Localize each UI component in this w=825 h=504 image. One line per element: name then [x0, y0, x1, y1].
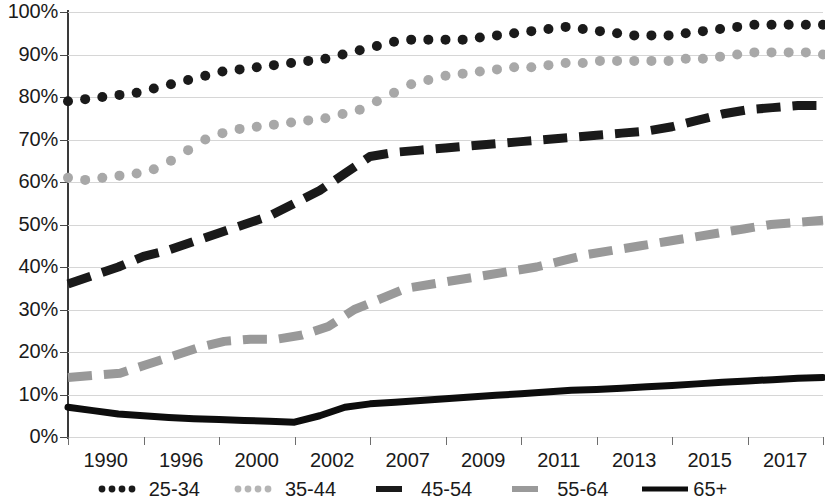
dotted-gray-marker-icon	[234, 482, 280, 496]
legend-item-25-34[interactable]: 25-34	[98, 479, 200, 499]
data-point	[114, 90, 124, 100]
x-axis-tick-mark	[597, 437, 598, 445]
y-axis-tick-label: 50%	[2, 214, 58, 234]
y-axis-tick-label: 100%	[2, 1, 58, 21]
data-point	[664, 30, 674, 40]
data-point	[252, 62, 262, 72]
data-point	[664, 56, 674, 66]
y-axis-tick-label: 90%	[2, 44, 58, 64]
y-axis-tick-label: 10%	[2, 384, 58, 404]
x-axis-tick-mark	[823, 437, 824, 445]
data-point	[423, 75, 433, 85]
data-point	[63, 96, 73, 106]
y-axis-tick-label: 40%	[2, 256, 58, 276]
data-point	[543, 60, 553, 70]
data-point	[200, 71, 210, 81]
legend-item-55-64[interactable]: 55-64	[506, 479, 608, 499]
data-point	[183, 75, 193, 85]
x-axis-tick-label: 2015	[688, 449, 733, 471]
data-point	[149, 164, 159, 174]
data-point	[372, 96, 382, 106]
data-point	[543, 24, 553, 34]
data-point	[749, 47, 759, 57]
x-axis-tick-label: 2009	[461, 449, 506, 471]
data-point	[441, 71, 451, 81]
data-point	[97, 173, 107, 183]
data-point	[252, 122, 262, 132]
data-point	[681, 54, 691, 64]
x-axis-tick-mark	[68, 437, 69, 445]
data-point	[355, 105, 365, 115]
data-point	[269, 60, 279, 70]
plot-area	[68, 12, 823, 437]
legend-item-45-54[interactable]: 45-54	[370, 479, 472, 499]
series-line	[68, 106, 823, 285]
data-point	[132, 169, 142, 179]
data-point	[818, 20, 825, 30]
x-axis-tick-mark	[370, 437, 371, 445]
series-65+	[68, 378, 823, 423]
x-axis-tick-mark	[219, 437, 220, 445]
data-point	[578, 58, 588, 68]
y-axis-tick-label: 60%	[2, 171, 58, 191]
data-point	[458, 69, 468, 79]
x-axis-tick-label: 2007	[386, 449, 431, 471]
legend-label: 55-64	[557, 479, 608, 499]
x-axis-tick-label: 1990	[84, 449, 129, 471]
data-point	[698, 26, 708, 36]
x-axis-tick-label: 2002	[310, 449, 355, 471]
chart-legend: 25-3435-4445-5455-6465+	[0, 474, 825, 504]
x-axis-tick-label: 1996	[159, 449, 204, 471]
data-point	[475, 67, 485, 77]
data-point	[801, 20, 811, 30]
data-point	[595, 26, 605, 36]
data-point	[303, 56, 313, 66]
data-point	[355, 45, 365, 55]
dotted-black-marker-icon	[98, 482, 144, 496]
data-point	[509, 62, 519, 72]
data-point	[114, 171, 124, 181]
series-line	[68, 378, 823, 423]
data-point	[80, 94, 90, 104]
data-point	[320, 113, 330, 123]
legend-item-65+[interactable]: 65+	[642, 479, 727, 499]
data-point	[698, 54, 708, 64]
data-point	[441, 35, 451, 45]
dashed-black-marker-icon	[370, 482, 416, 496]
data-point	[286, 118, 296, 128]
y-axis-tick-label: 20%	[2, 341, 58, 361]
dashed-gray-marker-icon	[506, 482, 552, 496]
data-point	[595, 56, 605, 66]
data-point	[578, 24, 588, 34]
data-point	[629, 56, 639, 66]
data-point	[492, 64, 502, 74]
data-point	[372, 41, 382, 51]
x-axis-tick-mark	[144, 437, 145, 445]
series-35-44	[63, 47, 825, 185]
data-point	[63, 173, 73, 183]
data-point	[818, 50, 825, 60]
data-point	[732, 22, 742, 32]
y-axis-tick-label: 70%	[2, 129, 58, 149]
data-point	[235, 64, 245, 74]
data-point	[681, 28, 691, 38]
data-point	[732, 50, 742, 60]
line-chart: 0%10%20%30%40%50%60%70%80%90%100% 199019…	[0, 0, 825, 504]
data-point	[166, 156, 176, 166]
data-point	[629, 30, 639, 40]
y-axis-tick-label: 0%	[2, 426, 58, 446]
data-point	[561, 58, 571, 68]
data-point	[646, 56, 656, 66]
data-point	[612, 56, 622, 66]
x-axis-tick-label: 2000	[235, 449, 280, 471]
data-point	[526, 26, 536, 36]
y-axis-labels: 0%10%20%30%40%50%60%70%80%90%100%	[0, 0, 58, 460]
x-axis-tick-mark	[521, 437, 522, 445]
legend-item-35-44[interactable]: 35-44	[234, 479, 336, 499]
data-point	[767, 20, 777, 30]
x-axis-tick-mark	[748, 437, 749, 445]
data-point	[509, 28, 519, 38]
data-point	[149, 84, 159, 94]
data-point	[749, 20, 759, 30]
series-25-34	[63, 20, 825, 107]
